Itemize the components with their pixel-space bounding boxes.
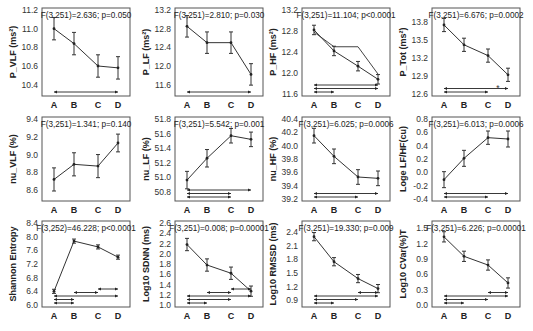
y-axis-label: nu_VLF (%) <box>8 134 18 184</box>
arrow-head-icon <box>228 192 231 195</box>
x-category-label: D <box>375 311 382 321</box>
arrow-head-icon <box>54 298 57 301</box>
data-point <box>443 24 446 27</box>
x-category-label: A <box>51 100 58 110</box>
y-tick-label: 7.2 <box>26 259 38 269</box>
mean-line <box>314 237 378 289</box>
y-tick-label: 8.0 <box>26 232 38 242</box>
y-axis-label: Log10 CVar(%)T <box>398 229 408 299</box>
data-point <box>53 27 56 30</box>
data-point <box>463 43 466 46</box>
y-tick-label: 8.8 <box>26 167 38 177</box>
y-tick-label: 9.2 <box>26 132 38 142</box>
plot-frame <box>302 8 390 96</box>
panel-shannon-entropy: 6.06.46.87.27.68.08.4ABCDShannon Entropy… <box>8 218 136 321</box>
y-tick-label: 39.2 <box>281 194 298 204</box>
arrow-head-icon <box>485 196 488 199</box>
arrow-head-icon <box>314 192 317 195</box>
y-tick-label: 9.0 <box>26 150 38 160</box>
data-point <box>97 65 100 68</box>
y-tick-label: 39.8 <box>281 154 298 164</box>
y-tick-label: 11.0 <box>22 24 38 34</box>
data-point <box>463 157 466 160</box>
arrow-head-icon <box>444 192 447 195</box>
arrow-head-icon <box>98 288 101 291</box>
anova-stat-label: F(3,251)=19.330; p=0.009 <box>298 224 394 233</box>
y-tick-label: 2.4 <box>286 227 298 237</box>
arrow-head-icon <box>331 302 334 305</box>
data-point <box>186 25 189 28</box>
panel-log10-cvar-t: 0.00.30.60.91.21.5ABCDLog10 CVar(%)TF(3,… <box>398 221 526 321</box>
y-tick-label: 2.2 <box>159 239 171 249</box>
arrow-head-icon <box>248 189 251 192</box>
y-tick-label: 11.6 <box>282 89 298 99</box>
arrow-head-icon <box>231 288 234 291</box>
y-tick-label: 1.2 <box>159 290 171 300</box>
y-tick-label: 1.8 <box>286 254 298 264</box>
arrow-head-icon <box>54 295 57 298</box>
arrow-head-icon <box>375 192 378 195</box>
data-point <box>97 165 100 168</box>
mean-line <box>444 237 508 283</box>
y-tick-label: 0.4 <box>416 141 428 151</box>
y-axis-label: Log10 RMSSD (ms) <box>268 222 278 305</box>
y-tick-label: 0.0 <box>416 300 428 310</box>
x-category-label: D <box>505 311 512 321</box>
arrow-head-icon <box>207 291 210 294</box>
arrow-head-icon <box>375 295 378 298</box>
x-category-label: B <box>331 205 338 215</box>
panel-p-hf: 11.612.012.412.813.2ABCDP_HF (ms²)F(3,25… <box>268 5 396 110</box>
y-tick-label: 0.9 <box>416 254 428 264</box>
y-tick-label: 11.6 <box>155 80 171 90</box>
arrow-head-icon <box>187 295 190 298</box>
x-category-label: D <box>248 100 255 110</box>
arrow-head-icon <box>74 291 77 294</box>
data-point <box>117 66 120 69</box>
x-category-label: B <box>461 205 468 215</box>
arrow-head-icon <box>187 91 190 94</box>
x-category-label: B <box>204 100 211 110</box>
x-category-label: A <box>184 100 191 110</box>
data-point <box>507 73 510 76</box>
arrow-head-icon <box>314 84 317 87</box>
y-tick-label: 1.8 <box>159 259 171 269</box>
plot-frame <box>432 8 520 96</box>
y-tick-label: 10.4 <box>21 80 38 90</box>
data-point <box>377 287 380 290</box>
data-point <box>117 142 120 145</box>
panel-nu-lf: 50.851.051.251.451.651.8ABCDnu_LF (%)F(3… <box>141 114 265 215</box>
y-tick-label: 40.4 <box>281 114 298 124</box>
arrow-head-icon <box>71 302 74 305</box>
x-category-label: B <box>331 100 338 110</box>
x-category-label: C <box>355 205 362 215</box>
y-tick-label: 51.2 <box>154 158 171 168</box>
overlay-line <box>314 32 378 74</box>
panel-log10-sdnn: 1.01.21.41.61.82.02.22.42.6ABCDLog10 SDN… <box>141 218 269 321</box>
data-point <box>357 277 360 280</box>
x-category-label: D <box>375 100 382 110</box>
x-category-label: B <box>331 311 338 321</box>
anova-stat-label: F(3,251)=5.542; p=0.001 <box>174 120 265 129</box>
arrow-head-icon <box>314 302 317 305</box>
arrow-head-icon <box>444 295 447 298</box>
anova-stat-label: F(3,251)=6.226; p=0.00001 <box>426 224 526 233</box>
arrow-head-icon <box>314 298 317 301</box>
plot-frame <box>42 8 130 96</box>
data-point <box>313 235 316 238</box>
arrow-head-icon <box>444 298 447 301</box>
y-axis-label: Shannon Entropy <box>8 227 18 302</box>
arrow-head-icon <box>444 87 447 90</box>
data-point <box>186 179 189 182</box>
arrow-head-icon <box>187 196 190 199</box>
y-tick-label: 12.6 <box>411 89 428 99</box>
data-point <box>333 155 336 158</box>
arrow-head-icon <box>228 196 231 199</box>
arrow-head-icon <box>71 298 74 301</box>
x-category-label: B <box>204 311 211 321</box>
arrow-head-icon <box>115 91 118 94</box>
x-category-label: A <box>441 205 448 215</box>
arrow-head-icon <box>314 87 317 90</box>
anova-stat-label: F(3,251)=6.013; p=0.0006 <box>428 120 524 129</box>
data-point <box>73 240 76 243</box>
anova-stat-label: F(3,251)=0.008; p=0.00001 <box>169 224 269 233</box>
